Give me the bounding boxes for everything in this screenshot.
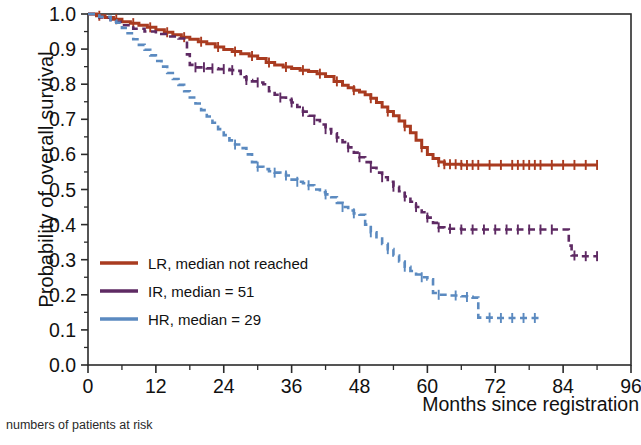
chart-legend: LR, median not reachedIR, median = 51HR,…	[100, 255, 308, 328]
x-tick-label: 24	[213, 375, 235, 397]
kaplan-meier-plot: 0.00.10.20.30.40.50.60.70.80.91.0 012243…	[0, 0, 641, 400]
x-tick-label: 36	[281, 375, 303, 397]
survival-chart-figure: Probability of overall survival Months s…	[0, 0, 641, 445]
y-tick-label: 0.0	[49, 354, 76, 376]
x-tick-label: 0	[83, 375, 94, 397]
survival-curves	[88, 11, 597, 323]
x-axis-title: Months since registration	[341, 393, 639, 416]
survival-curve-ir	[88, 14, 597, 256]
risk-table-caption: numbers of patients at risk	[6, 418, 153, 432]
x-tick-label: 12	[145, 375, 167, 397]
legend-label-2: HR, median = 29	[148, 311, 261, 328]
legend-label-0: LR, median not reached	[148, 255, 308, 272]
y-tick-label: 1.0	[49, 3, 76, 25]
legend-label-1: IR, median = 51	[148, 283, 254, 300]
y-axis-title: Probability of overall survival	[35, 30, 58, 330]
